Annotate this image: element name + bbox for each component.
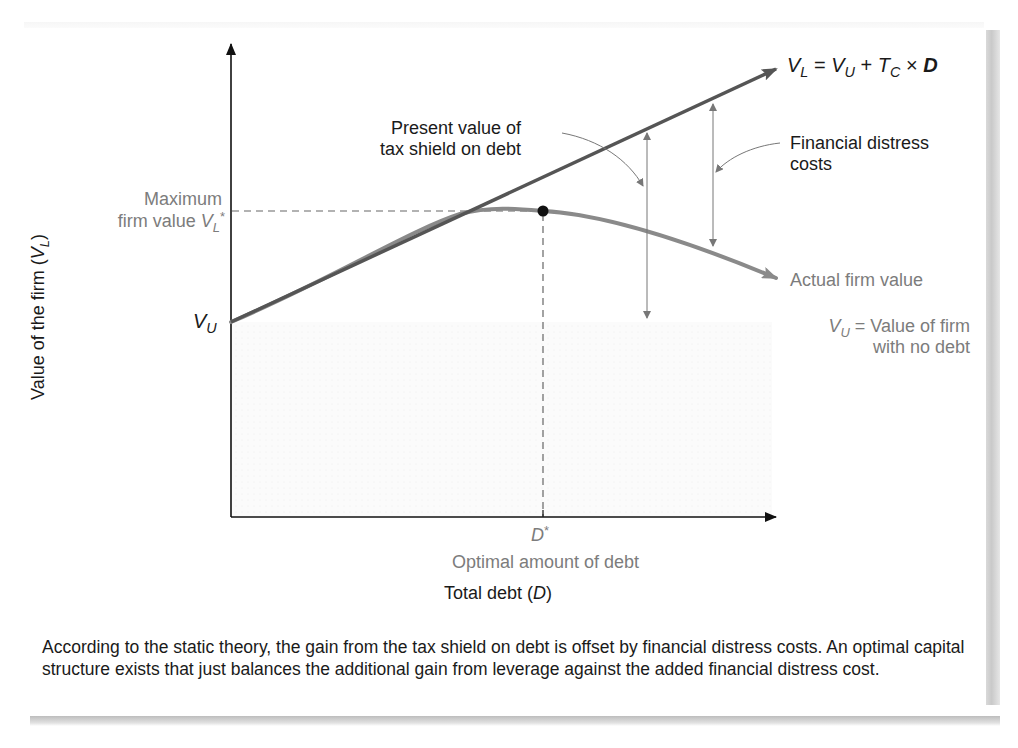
eq-vu-sub: U <box>845 64 855 80</box>
figure-caption: According to the static theory, the gain… <box>42 636 982 680</box>
eq-times: × <box>900 54 923 76</box>
eq-equals: = <box>808 54 831 76</box>
vu-axis-label: VU <box>193 310 217 333</box>
vu-var: V <box>193 310 206 332</box>
vu-def-line1: VU = Value of firm <box>787 316 970 337</box>
eq-vu: V <box>831 54 844 76</box>
vu-var-sub: U <box>206 320 216 336</box>
eq-vl: V <box>787 54 800 76</box>
distress-label-line1: Financial distress <box>790 133 929 154</box>
vu-def-var: V <box>828 316 840 336</box>
optimal-debt-label: Optimal amount of debt <box>452 552 639 573</box>
dstar-var: D <box>531 525 544 545</box>
vu-def-rest: = Value of firm <box>850 316 970 336</box>
tax-shield-label-line1: Present value of <box>380 118 521 139</box>
x-label-close: ) <box>546 583 552 603</box>
dstar-label: D* <box>531 525 549 546</box>
vu-definition-label: VU = Value of firm with no debt <box>787 316 970 357</box>
levered-value-line <box>231 69 776 322</box>
max-label-var: V <box>201 211 213 231</box>
optimum-point <box>538 206 549 217</box>
max-firm-value-label: Maximum <box>120 189 222 210</box>
levered-value-equation: VL = VU + TC × D <box>787 54 938 77</box>
y-label-var: V <box>28 247 48 259</box>
tax-shield-leader-arrow <box>562 133 643 186</box>
x-axis-label: Total debt (D) <box>444 583 552 604</box>
figure-page: VL = VU + TC × D Present value of tax sh… <box>0 0 1018 748</box>
actual-firm-value-label: Actual firm value <box>790 270 923 291</box>
eq-plus: + <box>855 54 878 76</box>
vu-def-line2: with no debt <box>787 337 970 358</box>
eq-vl-sub: L <box>800 64 808 80</box>
distress-costs-label: Financial distress costs <box>790 133 929 174</box>
eq-tc-sub: C <box>890 64 900 80</box>
eq-tc: T <box>878 54 890 76</box>
tax-shield-label: Present value of tax shield on debt <box>380 118 521 159</box>
max-firm-value-label-line2: firm value VL* <box>53 211 225 232</box>
y-label-text: Value of the firm ( <box>28 259 48 400</box>
max-label-text: firm value <box>118 211 201 231</box>
distress-label-line2: costs <box>790 154 929 175</box>
actual-firm-value-curve <box>231 209 776 322</box>
max-label-var-sub: L <box>213 220 220 235</box>
y-label-var-sub: L <box>37 240 52 247</box>
dstar-star: * <box>544 523 549 538</box>
y-axis-label: Value of the firm (VL) <box>28 234 49 400</box>
plot-background-texture <box>232 322 772 516</box>
distress-leader-arrow <box>716 143 780 172</box>
max-label-star: * <box>220 209 225 224</box>
eq-d: D <box>923 54 937 76</box>
tax-shield-label-line2: tax shield on debt <box>380 139 521 160</box>
x-label-text: Total debt ( <box>444 583 533 603</box>
max-label-line1: Maximum <box>120 189 222 210</box>
vu-def-var-sub: U <box>840 325 849 340</box>
x-label-var: D <box>533 583 546 603</box>
